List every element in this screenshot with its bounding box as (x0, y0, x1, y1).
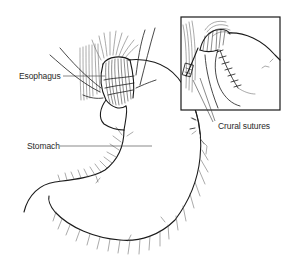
inset-frame (181, 17, 280, 110)
stomach-illustration: Esophagus Stomach Crural sutures (0, 0, 298, 272)
label-crural-sutures: Crural sutures (218, 121, 270, 131)
gastric-vessel (190, 112, 200, 134)
lesser-curvature (24, 127, 133, 212)
label-stomach-group: Stomach (27, 141, 152, 151)
label-esophagus: Esophagus (19, 71, 61, 81)
hiatus-fibers (92, 31, 138, 60)
greater-curvature (49, 112, 208, 254)
inset-panel (181, 17, 280, 110)
label-stomach: Stomach (27, 141, 60, 151)
